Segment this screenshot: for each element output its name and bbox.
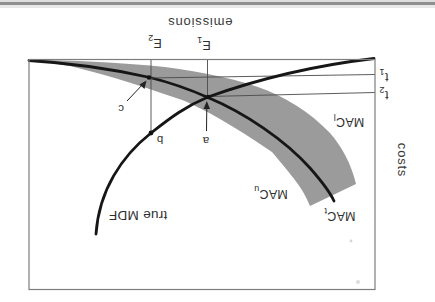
tick-e2-sub: 2 [148, 33, 153, 43]
x-axis-label: emissions [168, 16, 233, 29]
mac-uncertainty-band [29, 60, 356, 207]
tick-e2-base: E [153, 36, 162, 50]
mac-central-base: MAC [327, 209, 356, 223]
tick-e1-sub: 1 [197, 35, 202, 45]
tick-label-t2: t2 [380, 85, 389, 101]
mac-upper-sub: u [254, 184, 259, 194]
tick-t1-base: t [385, 70, 389, 84]
tick-t1-sub: 1 [380, 67, 385, 77]
tick-label-e1: E1 [197, 35, 211, 51]
tick-t2-sub: 2 [380, 85, 385, 95]
tick-label-t1: t1 [380, 67, 389, 83]
scan-speck [350, 240, 353, 243]
curve-label-mac-lower: MACl [334, 112, 365, 128]
curve-label-mac-upper: MACu [254, 184, 288, 200]
point-b-dot [149, 131, 154, 136]
point-label-c: c [118, 102, 124, 114]
mac-central-sub: t [324, 206, 327, 216]
point-label-a: a [203, 134, 210, 146]
point-a-dot [206, 95, 211, 100]
figure-canvas [0, 0, 435, 302]
y-axis-label: costs [396, 143, 409, 177]
tick-e1-base: E [202, 38, 211, 52]
point-c-dot [147, 75, 152, 80]
mac-upper-base: MAC [259, 187, 288, 201]
tick-label-e2: E2 [148, 33, 162, 49]
scanned-figure-page: emissions costs E2 E1 t1 t2 true MDF MAC… [0, 0, 435, 302]
mac-lower-sub: l [334, 112, 336, 122]
point-label-b: b [157, 133, 164, 145]
mac-lower-base: MAC [336, 115, 365, 129]
curve-label-mac-central: MACt [324, 206, 355, 222]
curve-label-true-mdf: true MDF [109, 208, 168, 222]
tick-t2-base: t [385, 88, 389, 102]
scan-speck [356, 280, 360, 284]
